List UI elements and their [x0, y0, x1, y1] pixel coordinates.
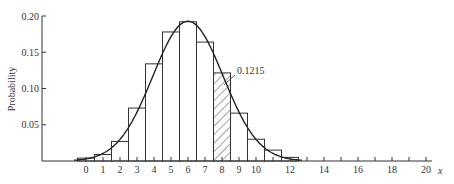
x-tick-label: 8	[220, 164, 225, 175]
normal-curve	[74, 21, 302, 160]
y-axis: 0.050.100.150.20	[22, 11, 47, 162]
y-tick-label: 0.10	[22, 83, 40, 94]
x-tick-label: 3	[135, 164, 140, 175]
bar	[231, 113, 248, 161]
x-tick-label: 16	[353, 164, 363, 175]
x-tick-label: 4	[152, 164, 157, 175]
x-axis-label: x	[437, 165, 443, 176]
x-tick-label: 10	[251, 164, 261, 175]
y-axis-label: Probability	[6, 67, 17, 111]
x-tick-label: 12	[285, 164, 295, 175]
x-tick-label: 20	[421, 164, 431, 175]
x-axis: 0123456789101214161820	[42, 157, 432, 175]
y-tick-label: 0.05	[22, 119, 40, 130]
x-tick-label: 9	[237, 164, 242, 175]
x-tick-label: 5	[169, 164, 174, 175]
histogram-bars	[78, 22, 299, 161]
probability-histogram-chart: 0.050.100.150.20 0123456789101214161820 …	[0, 0, 454, 184]
x-tick-label: 1	[101, 164, 106, 175]
x-tick-label: 0	[84, 164, 89, 175]
x-tick-label: 6	[186, 164, 191, 175]
x-tick-label: 18	[387, 164, 397, 175]
x-tick-label: 2	[118, 164, 123, 175]
annotation-label: 0.1215	[237, 65, 265, 76]
x-tick-label: 14	[319, 164, 329, 175]
y-tick-label: 0.20	[22, 11, 40, 22]
bar	[197, 42, 214, 161]
bar	[146, 64, 163, 161]
bar	[163, 32, 180, 161]
bar	[129, 108, 146, 161]
y-tick-label: 0.15	[22, 47, 40, 58]
x-tick-label: 7	[203, 164, 208, 175]
bar	[180, 22, 197, 161]
